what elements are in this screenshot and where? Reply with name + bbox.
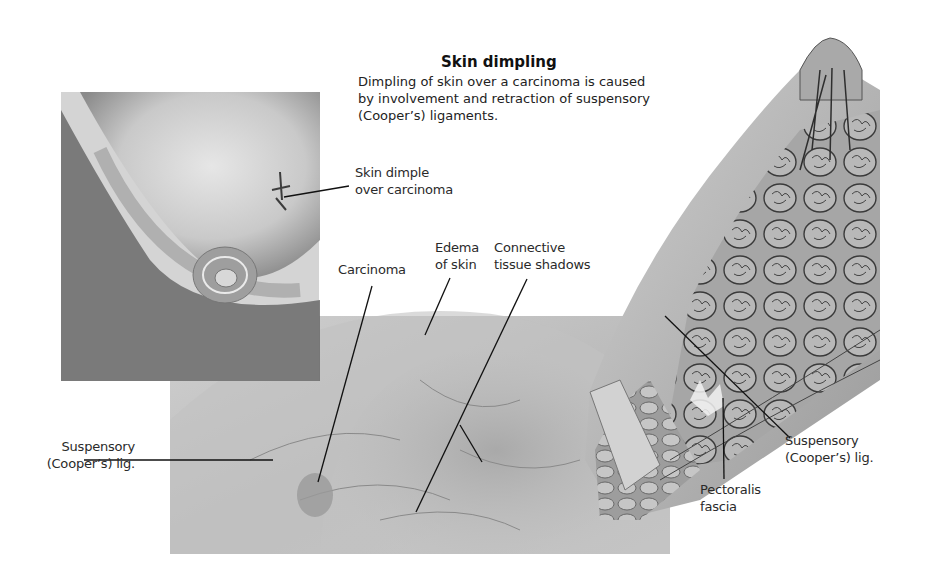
label-line: over carcinoma <box>355 181 453 198</box>
label-skin-dimple: Skin dimple over carcinoma <box>355 164 453 198</box>
label-line: of skin <box>435 256 479 273</box>
label-line: Skin dimple <box>355 164 453 181</box>
carcinoma-mass <box>297 473 333 517</box>
figure-description: Dimpling of skin over a carcinoma is cau… <box>358 73 658 124</box>
label-connective-tissue: Connective tissue shadows <box>494 239 590 273</box>
figure-title: Skin dimpling <box>441 53 557 71</box>
label-line: Pectoralis <box>700 481 761 498</box>
label-line: (Cooper’s) lig. <box>40 455 135 472</box>
label-line: Suspensory <box>785 432 873 449</box>
label-carcinoma: Carcinoma <box>338 261 406 278</box>
external-view-panel <box>61 92 320 381</box>
label-line: Suspensory <box>40 438 135 455</box>
label-pectoralis-fascia: Pectoralis fascia <box>700 481 761 515</box>
label-line: Edema <box>435 239 479 256</box>
label-line: tissue shadows <box>494 256 590 273</box>
label-line: Connective <box>494 239 590 256</box>
label-line: fascia <box>700 498 761 515</box>
label-suspensory-right: Suspensory (Cooper’s) lig. <box>785 432 873 466</box>
label-line: (Cooper’s) lig. <box>785 449 873 466</box>
label-edema: Edema of skin <box>435 239 479 273</box>
label-suspensory-left: Suspensory (Cooper’s) lig. <box>40 438 135 472</box>
